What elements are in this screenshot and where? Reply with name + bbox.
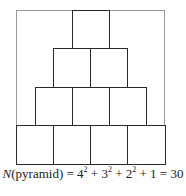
block-r2-1 bbox=[53, 48, 91, 88]
block-r3-2 bbox=[72, 87, 110, 126]
block-r2-2 bbox=[90, 48, 128, 88]
formula-variable: N bbox=[3, 166, 12, 181]
block-r4-3 bbox=[90, 125, 128, 165]
block-r3-1 bbox=[35, 87, 73, 126]
formula-caption: N(pyramid) = 42 + 32 + 22 + 1 = 30 bbox=[0, 166, 186, 182]
block-r4-1 bbox=[16, 125, 54, 165]
block-r3-3 bbox=[109, 87, 147, 126]
block-r4-4 bbox=[127, 125, 166, 165]
block-r4-2 bbox=[53, 125, 91, 165]
block-r1-1 bbox=[72, 10, 110, 49]
